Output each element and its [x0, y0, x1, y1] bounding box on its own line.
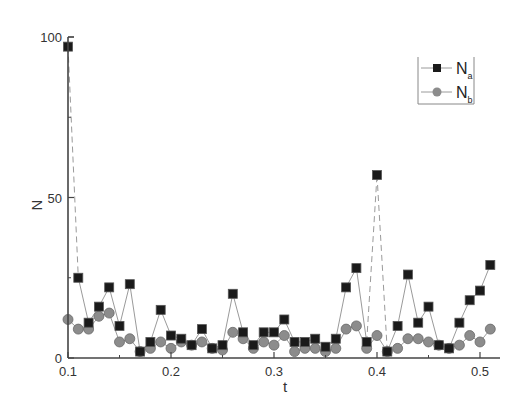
data-point-nb — [351, 321, 361, 331]
x-tick-label: 0.5 — [471, 364, 489, 379]
data-point-na — [125, 280, 134, 289]
data-point-na — [156, 305, 165, 314]
data-point-nb — [73, 324, 83, 334]
data-point-na — [290, 337, 299, 346]
data-point-nb — [331, 343, 341, 353]
x-axis-title: t — [283, 378, 288, 395]
data-point-na — [259, 328, 268, 337]
data-point-na — [105, 283, 114, 292]
data-point-na — [342, 283, 351, 292]
data-point-nb — [403, 334, 413, 344]
data-point-na — [249, 341, 258, 350]
data-point-na — [311, 334, 320, 343]
data-point-na — [352, 264, 361, 273]
legend-label-b: Nb — [456, 84, 473, 105]
y-tick-label: 100 — [40, 30, 62, 45]
line-chart: 0.10.20.30.40.5 050100 t N NaNb — [0, 0, 531, 403]
data-point-na — [383, 347, 392, 356]
data-point-na — [321, 342, 330, 351]
data-point-na — [373, 171, 382, 180]
data-point-nb — [454, 340, 464, 350]
data-point-na — [84, 318, 93, 327]
data-point-na — [167, 331, 176, 340]
data-point-na — [177, 334, 186, 343]
data-point-nb — [310, 343, 320, 353]
data-point-na — [434, 341, 443, 350]
x-tick-label: 0.3 — [265, 364, 283, 379]
data-point-na — [362, 337, 371, 346]
data-point-nb — [94, 311, 104, 321]
data-point-nb — [475, 337, 485, 347]
data-point-na — [331, 334, 340, 343]
data-point-na — [136, 347, 145, 356]
data-point-nb — [166, 343, 176, 353]
legend: NaNb — [418, 57, 474, 105]
data-point-na — [393, 321, 402, 330]
x-tick-label: 0.2 — [162, 364, 180, 379]
data-point-na — [476, 286, 485, 295]
data-point-na — [94, 302, 103, 311]
y-axis-title: N — [28, 200, 45, 211]
y-tick-label: 50 — [48, 191, 62, 206]
data-point-na — [197, 325, 206, 334]
data-point-nb — [485, 324, 495, 334]
legend-square-icon — [433, 64, 441, 72]
series-markers — [63, 42, 495, 356]
y-tick-label: 0 — [55, 351, 62, 366]
legend-label-a: Na — [456, 60, 473, 81]
data-point-nb — [197, 337, 207, 347]
x-tick-label: 0.4 — [368, 364, 386, 379]
data-point-nb — [279, 331, 289, 341]
data-point-na — [300, 337, 309, 346]
data-point-na — [445, 344, 454, 353]
data-point-na — [465, 296, 474, 305]
data-point-na — [218, 341, 227, 350]
data-point-nb — [115, 337, 125, 347]
data-point-nb — [465, 331, 475, 341]
data-point-na — [187, 341, 196, 350]
data-point-nb — [424, 337, 434, 347]
data-point-na — [74, 273, 83, 282]
data-point-nb — [125, 334, 135, 344]
data-point-nb — [259, 337, 269, 347]
data-point-nb — [413, 334, 423, 344]
data-point-na — [424, 302, 433, 311]
data-point-nb — [341, 324, 351, 334]
data-point-na — [403, 270, 412, 279]
x-tick-label: 0.1 — [59, 364, 77, 379]
data-point-nb — [372, 331, 382, 341]
data-point-na — [146, 337, 155, 346]
data-point-na — [228, 289, 237, 298]
data-point-nb — [269, 340, 279, 350]
data-point-na — [486, 260, 495, 269]
data-point-na — [280, 315, 289, 324]
data-point-nb — [393, 343, 403, 353]
data-point-na — [414, 318, 423, 327]
data-point-nb — [104, 308, 114, 318]
data-point-na — [115, 321, 124, 330]
data-point-nb — [228, 327, 238, 337]
data-point-na — [455, 318, 464, 327]
x-axis: 0.10.20.30.40.5 — [59, 352, 500, 379]
data-point-nb — [290, 347, 300, 357]
data-point-na — [270, 328, 279, 337]
data-point-na — [239, 328, 248, 337]
legend-circle-icon — [433, 88, 442, 97]
data-point-na — [208, 344, 217, 353]
data-point-nb — [156, 337, 166, 347]
